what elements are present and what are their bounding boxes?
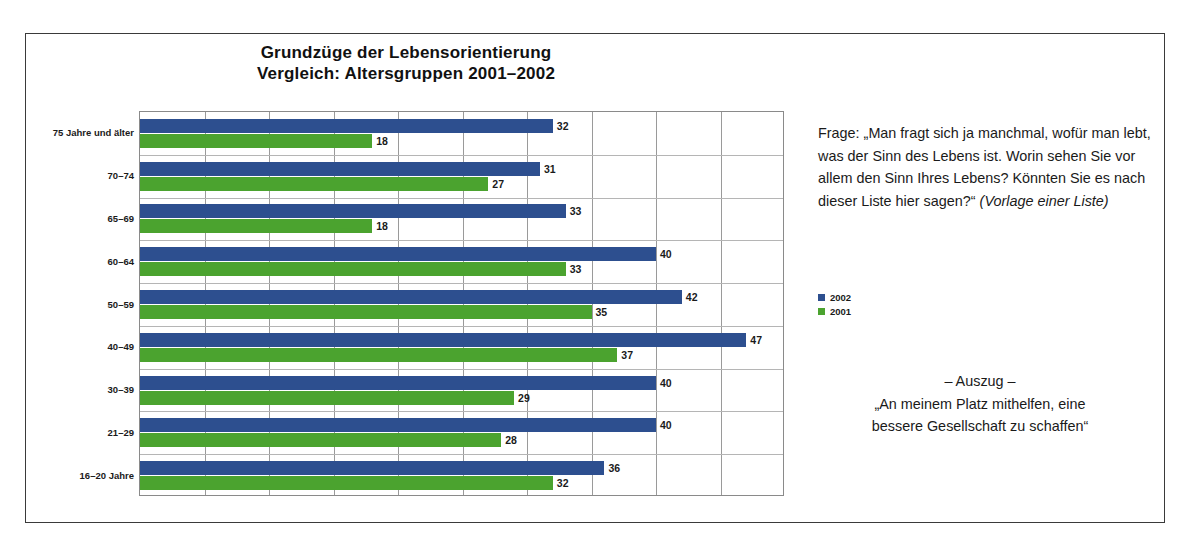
bar-2001 — [140, 177, 488, 191]
bar-group: 3632 — [140, 461, 783, 491]
legend-item-2001: 2001 — [818, 306, 851, 317]
y-axis-label: 60–64 — [108, 255, 134, 266]
bar-value-label: 33 — [566, 205, 582, 217]
bar-group: 3318 — [140, 204, 783, 234]
plot-area: 321831273318403342354737402940283632 — [139, 111, 784, 496]
bar-value-label: 32 — [553, 477, 569, 489]
bar-value-label: 28 — [501, 434, 517, 446]
y-axis-label: 65–69 — [108, 212, 134, 223]
legend-item-2002: 2002 — [818, 292, 851, 303]
bar-value-label: 40 — [656, 248, 672, 260]
bar-row: 31 — [140, 162, 783, 176]
chart-subtitle: Vergleich: Altersgruppen 2001–2002 — [26, 63, 786, 84]
bar-2002 — [140, 204, 566, 218]
y-axis-label: 16–20 Jahre — [80, 469, 134, 480]
bar-row: 18 — [140, 219, 783, 233]
bar-2002 — [140, 418, 656, 432]
bar-value-label: 36 — [604, 462, 620, 474]
bar-row: 29 — [140, 391, 783, 405]
excerpt-heading: – Auszug – — [804, 370, 1156, 393]
bar-rows: 321831273318403342354737402940283632 — [140, 112, 783, 495]
bar-row: 35 — [140, 305, 783, 319]
bar-2001 — [140, 391, 514, 405]
bar-2002 — [140, 333, 746, 347]
bar-row: 33 — [140, 204, 783, 218]
bar-2001 — [140, 134, 372, 148]
bar-2001 — [140, 433, 501, 447]
bar-2002 — [140, 461, 604, 475]
bar-2001 — [140, 262, 566, 276]
bar-value-label: 40 — [656, 377, 672, 389]
bar-value-label: 32 — [553, 120, 569, 132]
bar-2002 — [140, 119, 553, 133]
bar-row: 47 — [140, 333, 783, 347]
bar-row: 40 — [140, 247, 783, 261]
bar-value-label: 42 — [682, 291, 698, 303]
bar-2001 — [140, 305, 592, 319]
chart-legend: 2002 2001 — [818, 292, 851, 320]
bar-group: 4033 — [140, 247, 783, 277]
legend-swatch-icon — [818, 294, 825, 301]
y-axis-label: 40–49 — [108, 341, 134, 352]
y-axis-label: 70–74 — [108, 170, 134, 181]
bar-value-label: 37 — [617, 349, 633, 361]
bar-2002 — [140, 247, 656, 261]
excerpt-line-2: bessere Gesellschaft zu schaffen“ — [804, 415, 1156, 438]
chart-title-block: Grundzüge der Lebensorientierung Verglei… — [26, 42, 786, 84]
bar-value-label: 35 — [592, 306, 608, 318]
bar-group: 3127 — [140, 162, 783, 192]
bar-value-label: 40 — [656, 419, 672, 431]
bar-row: 40 — [140, 376, 783, 390]
chart-title: Grundzüge der Lebensorientierung — [26, 42, 786, 63]
y-axis-label: 75 Jahre und älter — [53, 127, 134, 138]
bar-group: 4737 — [140, 333, 783, 363]
bar-2001 — [140, 476, 553, 490]
bar-row: 32 — [140, 119, 783, 133]
y-axis-labels: 75 Jahre und älter70–7465–6960–6450–5940… — [26, 111, 134, 496]
question-note: (Vorlage einer Liste) — [980, 193, 1109, 209]
bar-2002 — [140, 376, 656, 390]
bar-row: 27 — [140, 177, 783, 191]
bar-2002 — [140, 290, 682, 304]
bar-2001 — [140, 348, 617, 362]
bar-value-label: 18 — [372, 135, 388, 147]
bar-row: 28 — [140, 433, 783, 447]
bar-row: 40 — [140, 418, 783, 432]
bar-row: 42 — [140, 290, 783, 304]
bar-row: 37 — [140, 348, 783, 362]
excerpt-block: – Auszug – „An meinem Platz mithelfen, e… — [804, 370, 1156, 438]
legend-label: 2001 — [830, 306, 851, 317]
y-axis-label: 21–29 — [108, 426, 134, 437]
legend-label: 2002 — [830, 292, 851, 303]
bar-value-label: 47 — [746, 334, 762, 346]
right-panel: Frage: „Man fragt sich ja manchmal, wofü… — [794, 34, 1166, 522]
bar-group: 4029 — [140, 376, 783, 406]
bar-row: 36 — [140, 461, 783, 475]
bar-row: 33 — [140, 262, 783, 276]
excerpt-line-1: „An meinem Platz mithelfen, eine — [804, 393, 1156, 416]
chart-figure: Grundzüge der Lebensorientierung Verglei… — [25, 33, 1165, 523]
bar-value-label: 27 — [488, 178, 504, 190]
bar-2001 — [140, 219, 372, 233]
bar-group: 4028 — [140, 418, 783, 448]
y-axis-label: 50–59 — [108, 298, 134, 309]
bar-value-label: 31 — [540, 163, 556, 175]
bar-value-label: 18 — [372, 220, 388, 232]
bar-row: 32 — [140, 476, 783, 490]
y-axis-label: 30–39 — [108, 384, 134, 395]
bar-group: 4235 — [140, 290, 783, 320]
bar-value-label: 33 — [566, 263, 582, 275]
bar-2002 — [140, 162, 540, 176]
question-text: Frage: „Man fragt sich ja manchmal, wofü… — [818, 122, 1158, 212]
legend-swatch-icon — [818, 308, 825, 315]
bar-row: 18 — [140, 134, 783, 148]
bar-group: 3218 — [140, 119, 783, 149]
bar-value-label: 29 — [514, 392, 530, 404]
